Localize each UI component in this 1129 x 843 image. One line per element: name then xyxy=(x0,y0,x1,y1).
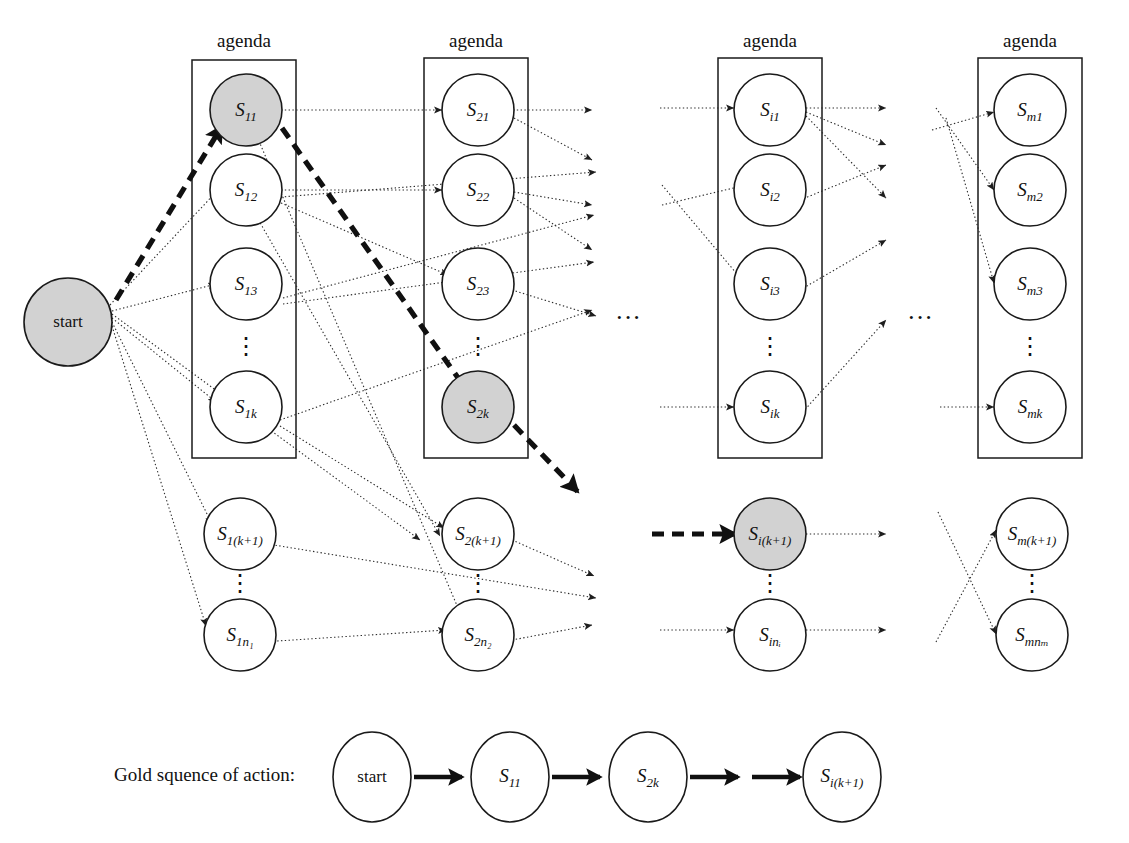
node-s1n1[interactable]: S1n₁ xyxy=(204,599,276,671)
node-label: start xyxy=(357,767,387,786)
node-s13[interactable]: S13 xyxy=(210,248,282,320)
vdots-col3-outside: ⋮ xyxy=(758,570,782,596)
vdots-col3-box: ⋮ xyxy=(758,333,782,359)
node-sik1[interactable]: Si(k+1) xyxy=(734,498,806,570)
agenda-label-col2: agenda xyxy=(449,30,503,51)
node-sini[interactable]: Sinᵢ xyxy=(734,599,806,671)
node-sik[interactable]: Sik xyxy=(734,371,806,443)
seq-node-s11[interactable]: S11 xyxy=(471,732,549,822)
agenda-label-col4: agenda xyxy=(1003,30,1057,51)
node-s1k1[interactable]: S1(k+1) xyxy=(204,498,276,570)
vdots-col1-outside: ⋮ xyxy=(228,570,252,596)
node-sm3[interactable]: Sm3 xyxy=(994,248,1066,320)
node-sm1[interactable]: Sm1 xyxy=(994,74,1066,146)
ellipsis-between-col3-col4: ··· xyxy=(907,303,933,332)
node-smk[interactable]: Smk xyxy=(994,371,1066,443)
node-si2[interactable]: Si2 xyxy=(734,154,806,226)
node-sm2[interactable]: Sm2 xyxy=(994,154,1066,226)
node-smk1[interactable]: Sm(k+1) xyxy=(996,498,1068,570)
node-s12[interactable]: S12 xyxy=(210,154,282,226)
node-s2k[interactable]: S2k xyxy=(442,371,514,443)
vdots-col2-outside: ⋮ xyxy=(466,570,490,596)
edges-col2-outgoing xyxy=(512,110,596,640)
node-s21[interactable]: S21 xyxy=(442,74,514,146)
vdots-col1-box: ⋮ xyxy=(234,333,258,359)
seq-node-s2k[interactable]: S2k xyxy=(609,732,687,822)
agenda-label-col1: agenda xyxy=(217,30,271,51)
node-start[interactable]: start xyxy=(24,278,112,366)
node-si3[interactable]: Si3 xyxy=(734,248,806,320)
node-s11[interactable]: S11 xyxy=(210,74,282,146)
edges-col1-to-col2 xyxy=(247,110,596,642)
vdots-col4-outside: ⋮ xyxy=(1020,570,1044,596)
node-smnm[interactable]: Smnₘ xyxy=(996,599,1068,671)
edges-col3-outgoing xyxy=(800,108,886,630)
gold-sequence-caption: Gold squence of action: xyxy=(114,764,295,785)
start-node-label: start xyxy=(53,312,83,331)
node-si1[interactable]: Si1 xyxy=(734,74,806,146)
seq-node-start[interactable]: start xyxy=(333,732,411,822)
agenda-label-col3: agenda xyxy=(743,30,797,51)
edges-into-col4 xyxy=(932,108,996,642)
node-s22[interactable]: S22 xyxy=(442,154,514,226)
edges-into-col3 xyxy=(660,108,742,630)
node-s23[interactable]: S23 xyxy=(442,248,514,320)
gold-path xyxy=(116,126,736,534)
node-s2n2[interactable]: S2n₂ xyxy=(442,599,514,671)
node-s1k[interactable]: S1k xyxy=(210,371,282,443)
agenda-search-diagram: agenda agenda agenda agenda xyxy=(0,0,1129,843)
ellipsis-between-col2-col3: ··· xyxy=(615,303,641,332)
figure-root: agenda agenda agenda agenda xyxy=(0,0,1129,843)
seq-node-sik1[interactable]: Si(k+1) xyxy=(803,732,881,822)
vdots-col2-box: ⋮ xyxy=(466,333,490,359)
vdots-col4-box: ⋮ xyxy=(1018,333,1042,359)
node-s2k1[interactable]: S2(k+1) xyxy=(442,498,514,570)
